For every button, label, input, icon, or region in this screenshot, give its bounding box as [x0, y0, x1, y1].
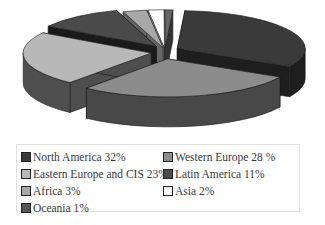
- legend-label: Africa 3%: [33, 185, 81, 197]
- legend-item-latin-america: Latin America 11%: [163, 166, 301, 182]
- legend-swatch-africa: [21, 186, 31, 196]
- legend-label: Western Europe 28 %: [175, 151, 275, 163]
- legend-item-western-europe: Western Europe 28 %: [163, 149, 301, 165]
- legend-swatch-asia: [163, 186, 173, 196]
- pie-chart-3d: [0, 0, 325, 130]
- legend-item-asia: Asia 2%: [163, 183, 301, 199]
- legend-label: Oceania 1%: [33, 202, 89, 214]
- legend-swatch-north-america: [21, 152, 31, 162]
- legend-item-north-america: North America 32%: [21, 149, 163, 165]
- legend-swatch-latin-america: [163, 169, 173, 179]
- legend-item-eastern-europe: Eastern Europe and CIS 23%: [21, 166, 163, 182]
- legend-item-africa: Africa 3%: [21, 183, 163, 199]
- legend-swatch-oceania: [21, 203, 31, 213]
- legend-label: Asia 2%: [175, 185, 214, 197]
- legend-label: North America 32%: [33, 151, 126, 163]
- legend-label: Latin America 11%: [175, 168, 265, 180]
- legend-item-oceania: Oceania 1%: [21, 200, 163, 216]
- legend-swatch-western-europe: [163, 152, 173, 162]
- chart-legend: North America 32% Western Europe 28 % Ea…: [16, 144, 300, 212]
- legend-swatch-eastern-europe: [21, 169, 31, 179]
- legend-label: Eastern Europe and CIS 23%: [33, 168, 168, 180]
